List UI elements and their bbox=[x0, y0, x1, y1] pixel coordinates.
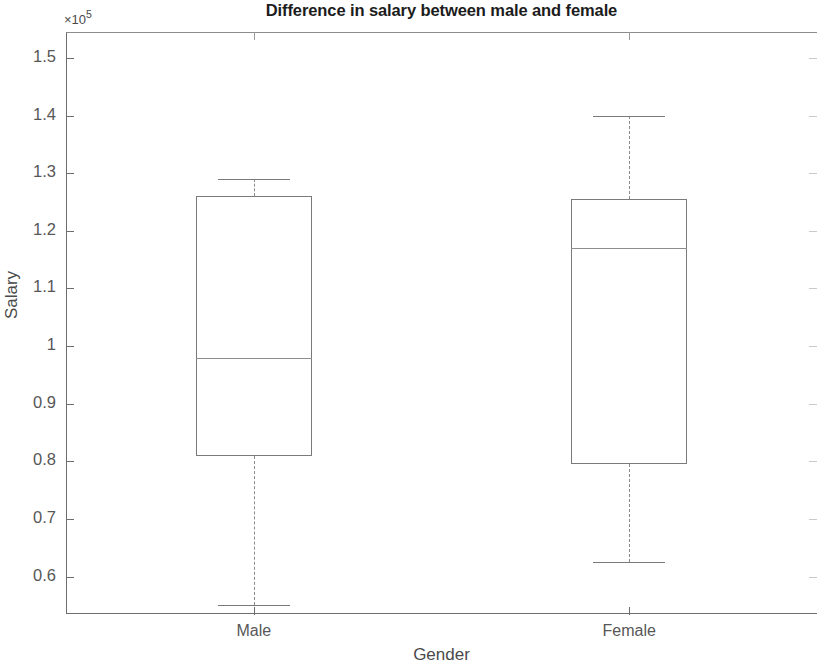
box-male bbox=[196, 196, 312, 455]
median-line-male bbox=[196, 358, 312, 359]
y-axis-tick-label: 1 bbox=[2, 335, 56, 354]
y-axis-tick bbox=[66, 58, 74, 59]
y-axis-tick-label: 1.4 bbox=[2, 105, 56, 124]
x-axis-tick-top bbox=[254, 32, 255, 40]
box-plot-figure: Difference in salary between male and fe… bbox=[0, 0, 817, 669]
y-axis-tick-right bbox=[809, 404, 817, 405]
y-axis-tick bbox=[66, 288, 74, 289]
whisker-lower bbox=[629, 464, 630, 562]
y-axis-tick bbox=[66, 404, 74, 405]
y-axis-tick-label: 1.3 bbox=[2, 162, 56, 181]
y-axis-tick-right bbox=[809, 116, 817, 117]
y-axis-tick-right bbox=[809, 461, 817, 462]
y-axis-tick-right bbox=[809, 173, 817, 174]
y-axis-tick-right bbox=[809, 346, 817, 347]
x-axis-label: Gender bbox=[66, 645, 817, 665]
x-axis-tick bbox=[254, 607, 255, 615]
x-axis-tick-label: Male bbox=[184, 622, 324, 640]
whisker-upper bbox=[254, 179, 255, 196]
y-axis-tick bbox=[66, 346, 74, 347]
chart-title: Difference in salary between male and fe… bbox=[66, 1, 817, 20]
whisker-cap-lower bbox=[593, 562, 665, 563]
y-axis-tick-label: 0.6 bbox=[2, 566, 56, 585]
y-axis-tick bbox=[66, 116, 74, 117]
y-axis-tick-label: 1.1 bbox=[2, 277, 56, 296]
y-axis-tick bbox=[66, 519, 74, 520]
x-axis-tick-label: Female bbox=[559, 622, 699, 640]
y-axis-tick-label: 1.2 bbox=[2, 220, 56, 239]
plot-area bbox=[66, 32, 817, 614]
y-axis-tick-label: 0.8 bbox=[2, 450, 56, 469]
y-axis-exponent-label: ×105 bbox=[64, 8, 92, 28]
whisker-cap-upper bbox=[218, 179, 290, 180]
y-axis-tick-label: 0.7 bbox=[2, 508, 56, 527]
y-axis-exponent-base: ×10 bbox=[64, 12, 86, 27]
x-axis-tick-top bbox=[629, 32, 630, 40]
whisker-cap-upper bbox=[593, 116, 665, 117]
box-female bbox=[571, 199, 687, 464]
y-axis-tick bbox=[66, 173, 74, 174]
y-axis-exponent-power: 5 bbox=[86, 8, 92, 20]
y-axis-tick bbox=[66, 231, 74, 232]
y-axis-tick-right bbox=[809, 58, 817, 59]
y-axis-tick-label: 0.9 bbox=[2, 393, 56, 412]
whisker-lower bbox=[254, 456, 255, 606]
y-axis-tick bbox=[66, 577, 74, 578]
y-axis-tick-label: 1.5 bbox=[2, 47, 56, 66]
x-axis-tick bbox=[629, 607, 630, 615]
y-axis-tick-right bbox=[809, 288, 817, 289]
median-line-female bbox=[571, 248, 687, 249]
y-axis-tick-right bbox=[809, 231, 817, 232]
whisker-cap-lower bbox=[218, 605, 290, 606]
y-axis-tick-right bbox=[809, 519, 817, 520]
whisker-upper bbox=[629, 116, 630, 200]
y-axis-tick bbox=[66, 461, 74, 462]
y-axis-tick-right bbox=[809, 577, 817, 578]
